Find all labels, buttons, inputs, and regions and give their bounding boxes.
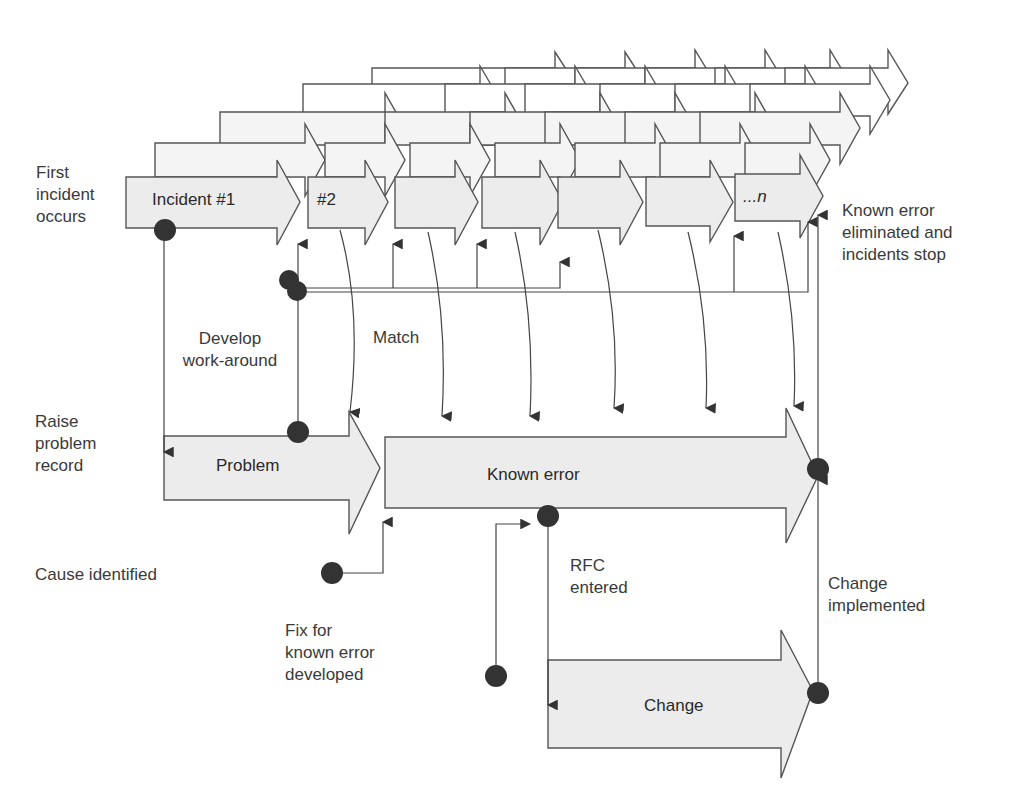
known-error-eliminated-annotation: Known error eliminated and incidents sto…	[842, 200, 953, 266]
raise-problem-annotation: Raise problem record	[35, 411, 96, 477]
cause-identified-annotation: Cause identified	[35, 564, 157, 586]
known-error-arrow	[385, 408, 818, 543]
annotation-line: RFC	[570, 555, 628, 577]
annotation-line: First	[36, 162, 95, 184]
problem-management-flow-diagram	[0, 0, 1010, 800]
annotation-line: record	[35, 455, 96, 477]
annotation-line: known error	[285, 642, 375, 664]
annotation-line: problem	[35, 433, 96, 455]
incident-n-label: ...n	[743, 187, 767, 207]
fix-developed-dot	[485, 665, 507, 687]
annotation-line: Fix for	[285, 620, 375, 642]
annotation-line: entered	[570, 577, 628, 599]
rfc-entered-annotation: RFC entered	[570, 555, 628, 599]
problem-workaround-dot	[287, 421, 309, 443]
known-error-end-dot	[807, 458, 829, 480]
fix-developed-annotation: Fix for known error developed	[285, 620, 375, 686]
annotation-line: occurs	[36, 206, 95, 228]
annotation-line: work-around	[170, 350, 290, 372]
problem-label: Problem	[216, 456, 279, 476]
annotation-line: Develop	[170, 328, 290, 350]
workaround-dot-b	[287, 281, 307, 301]
develop-workaround-annotation: Develop work-around	[170, 328, 290, 372]
known-error-label: Known error	[487, 465, 580, 485]
annotation-line: developed	[285, 664, 375, 686]
annotation-line: incidents stop	[842, 244, 953, 266]
first-incident-annotation: First incident occurs	[36, 162, 95, 228]
incident-start-dot	[154, 219, 176, 241]
change-implemented-annotation: Change implemented	[828, 573, 925, 617]
match-annotation: Match	[373, 327, 419, 349]
incident-2-label: #2	[317, 190, 336, 210]
annotation-line: incident	[36, 184, 95, 206]
annotation-line: eliminated and	[842, 222, 953, 244]
annotation-line: Known error	[842, 200, 953, 222]
change-end-dot	[807, 682, 829, 704]
rfc-dot	[537, 505, 559, 527]
change-label: Change	[644, 696, 704, 716]
annotation-line: Raise	[35, 411, 96, 433]
annotation-line: implemented	[828, 595, 925, 617]
incident-1-label: Incident #1	[152, 190, 235, 210]
cause-identified-dot	[321, 562, 343, 584]
annotation-line: Change	[828, 573, 925, 595]
